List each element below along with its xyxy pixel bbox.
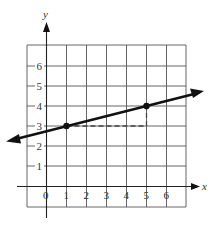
point-1-3 — [63, 123, 69, 129]
svg-text:5: 5 — [37, 80, 43, 92]
line-left-arrow-icon — [6, 134, 21, 144]
point-5-4 — [143, 103, 149, 109]
svg-text:3: 3 — [104, 189, 110, 201]
x-axis-label: x — [201, 180, 207, 192]
svg-text:6: 6 — [164, 189, 170, 201]
svg-text:5: 5 — [144, 189, 150, 201]
y-axis-label: y — [42, 8, 48, 20]
svg-text:4: 4 — [37, 100, 43, 112]
coordinate-graph: x y 0 1 2 3 4 5 6 1 2 3 4 5 6 — [0, 0, 218, 228]
line-right-arrow-icon — [190, 89, 204, 99]
data-line — [6, 89, 204, 144]
svg-text:2: 2 — [37, 140, 43, 152]
svg-text:1: 1 — [64, 189, 70, 201]
svg-text:4: 4 — [124, 189, 130, 201]
svg-text:3: 3 — [37, 120, 43, 132]
y-axis-arrow-icon — [43, 22, 50, 32]
svg-text:6: 6 — [37, 60, 43, 72]
x-axis-arrow-icon — [191, 183, 200, 190]
svg-text:1: 1 — [37, 160, 43, 172]
svg-text:2: 2 — [84, 189, 90, 201]
origin-label: 0 — [43, 189, 49, 201]
y-tick-labels: 1 2 3 4 5 6 — [35, 59, 44, 172]
x-tick-labels: 1 2 3 4 5 6 — [64, 189, 170, 201]
